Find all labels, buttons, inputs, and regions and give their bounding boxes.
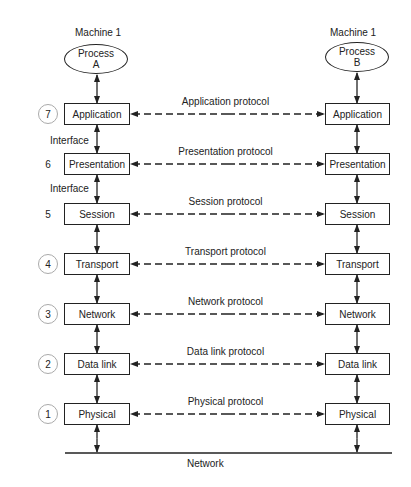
layer-number-network: 3: [38, 304, 58, 324]
left-layer-presentation-label: Presentation: [69, 159, 125, 170]
left-layer-application-label: Application: [73, 109, 122, 120]
interface-label-6-5: Interface: [50, 184, 89, 194]
interface-label-7-6: Interface: [50, 136, 89, 146]
osi-model-diagram: Machine 1 Machine 1 Process A Process B …: [0, 0, 411, 487]
network-label: Network: [187, 459, 224, 469]
right-layer-session-label: Session: [340, 209, 376, 220]
left-layer-data-link-label: Data link: [78, 359, 117, 370]
left-layer-transport-label: Transport: [76, 259, 118, 270]
left-machine-title: Machine 1: [75, 28, 121, 38]
process-b-line2: B: [354, 57, 361, 69]
process-b: Process B: [325, 42, 389, 72]
right-layer-application-label: Application: [333, 109, 382, 120]
layer-number-data-link: 2: [38, 354, 58, 374]
layer-number-session: 5: [38, 204, 58, 224]
right-layer-physical-label: Physical: [339, 409, 376, 420]
protocol-label-transport: Transport protocol: [0, 247, 411, 257]
process-a-line1: Process: [78, 48, 114, 60]
process-a-line2: A: [93, 59, 100, 71]
protocol-label-physical: Physical protocol: [0, 397, 411, 407]
protocol-label-presentation: Presentation protocol: [0, 147, 411, 157]
protocol-label-network: Network protocol: [0, 297, 411, 307]
right-layer-presentation-label: Presentation: [329, 159, 385, 170]
right-layer-data-link-label: Data link: [338, 359, 377, 370]
layer-number-presentation: 6: [38, 154, 58, 174]
process-b-line1: Process: [339, 46, 375, 58]
left-layer-session-label: Session: [79, 209, 115, 220]
protocol-label-session: Session protocol: [0, 197, 411, 207]
process-a: Process A: [64, 44, 128, 74]
left-layer-network-label: Network: [79, 309, 116, 320]
layer-number-physical: 1: [38, 404, 58, 424]
layer-number-application: 7: [38, 104, 58, 124]
protocol-label-application: Application protocol: [0, 97, 411, 107]
layer-number-transport: 4: [38, 254, 58, 274]
left-layer-physical-label: Physical: [78, 409, 115, 420]
protocol-label-data-link: Data link protocol: [0, 347, 411, 357]
right-layer-transport-label: Transport: [336, 259, 378, 270]
right-machine-title: Machine 1: [330, 28, 376, 38]
right-layer-network-label: Network: [339, 309, 376, 320]
